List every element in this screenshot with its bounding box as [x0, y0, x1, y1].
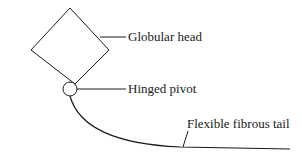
head-label: Globular head — [128, 29, 203, 44]
tail-label: Flexible fibrous tail — [187, 116, 290, 131]
hinged-pivot-shape — [63, 82, 77, 96]
tail-leader-line — [183, 131, 188, 147]
pivot-label: Hinged pivot — [128, 81, 197, 96]
myosin-diagram: Globular head Hinged pivot Flexible fibr… — [0, 0, 302, 161]
globular-head-shape — [31, 8, 109, 84]
